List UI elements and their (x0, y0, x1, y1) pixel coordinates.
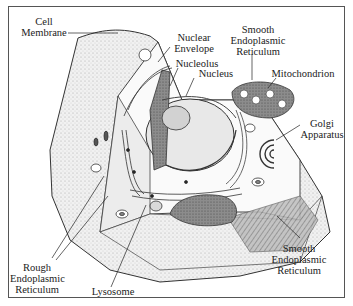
label-cell-membrane: Cell Membrane (20, 16, 68, 38)
label-lysosome: Lysosome (88, 286, 138, 297)
label-nuclear-envelope: Nuclear Envelope (172, 32, 216, 54)
label-golgi-apparatus: Golgi Apparatus (300, 118, 344, 140)
label-nucleus: Nucleus (194, 68, 238, 79)
label-rough-er: Rough Endoplasmic Reticulum (10, 262, 64, 295)
label-mitochondrion: Mitochondrion (270, 68, 336, 79)
label-smooth-er-bottom: Smooth Endoplasmic Reticulum (268, 243, 330, 276)
label-smooth-er-top: Smooth Endoplasmic Reticulum (228, 24, 288, 57)
